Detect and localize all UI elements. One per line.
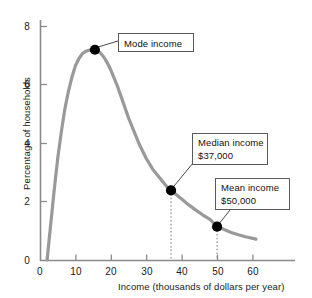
mode-leader-line	[97, 41, 119, 48]
mean-callout-label: Mean income	[221, 182, 279, 193]
mode-point-dot	[90, 45, 100, 55]
x-tick-label-60: 60	[241, 266, 265, 277]
y-axis-ticks	[41, 27, 48, 202]
x-tick-label-10: 10	[64, 266, 88, 277]
median-income-callout: Median income $37,000	[192, 133, 268, 165]
y-axis-title: Percentage of households	[21, 59, 32, 209]
mean-callout-value: $50,000	[221, 194, 285, 207]
x-axis-title: Income (thousands of dollars per year)	[118, 281, 284, 292]
mean-leader-line	[219, 210, 231, 225]
median-callout-value: $37,000	[198, 149, 263, 162]
median-point-dot	[166, 185, 176, 195]
x-tick-label-40: 40	[170, 266, 194, 277]
mode-callout-label: Mode income	[124, 38, 182, 49]
mean-income-callout: Mean income $50,000	[215, 178, 290, 210]
mode-income-callout: Mode income	[118, 33, 194, 52]
y-tick-label-0: 0	[16, 255, 30, 266]
income-distribution-chart: 0 2 4 6 8 0 10 20 30 40 50 60 Income (th…	[0, 0, 312, 298]
median-callout-label: Median income	[198, 137, 264, 148]
median-leader-line	[172, 163, 193, 189]
x-tick-label-30: 30	[135, 266, 159, 277]
mean-point-dot	[212, 222, 222, 232]
x-tick-label-0: 0	[28, 266, 52, 277]
x-tick-label-50: 50	[206, 266, 230, 277]
drop-lines	[171, 190, 217, 259]
x-tick-label-20: 20	[99, 266, 123, 277]
y-tick-label-8: 8	[16, 21, 30, 32]
